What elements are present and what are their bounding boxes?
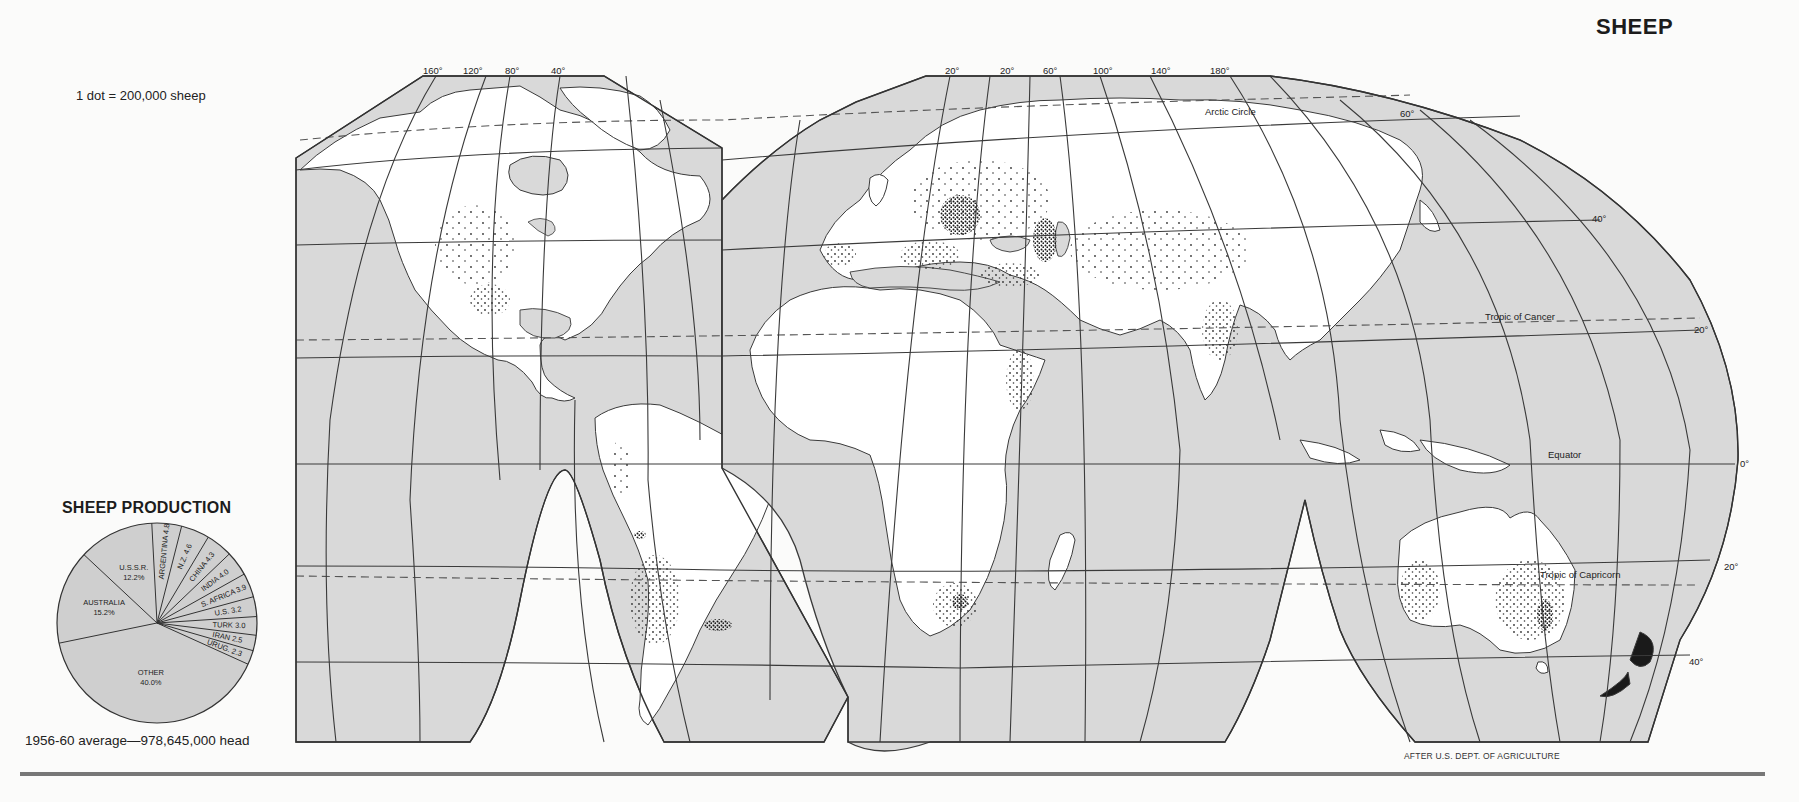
longitude-labels: 160° 120° 80° 40° 20° 20° 60° 100° 140° … <box>423 65 1230 76</box>
svg-text:100°: 100° <box>1093 65 1113 76</box>
bottom-rule <box>20 772 1765 776</box>
svg-text:60°: 60° <box>1400 108 1415 119</box>
pie-slice-label: OTHER40.0% <box>138 668 165 687</box>
arctic-circle-label: Arctic Circle <box>1205 106 1256 117</box>
source-credit: AFTER U.S. DEPT. OF AGRICULTURE <box>1404 751 1560 761</box>
svg-text:20°: 20° <box>1000 65 1015 76</box>
tropic-of-capricorn-label: Tropic of Capricorn <box>1540 569 1620 580</box>
lobe-eastern-hemisphere <box>722 76 1738 751</box>
equator-label: Equator <box>1548 449 1581 460</box>
svg-text:20°: 20° <box>1694 324 1709 335</box>
svg-text:40°: 40° <box>1592 213 1607 224</box>
svg-text:20°: 20° <box>945 65 960 76</box>
svg-text:40°: 40° <box>551 65 566 76</box>
svg-text:80°: 80° <box>505 65 520 76</box>
world-map: 160° 120° 80° 40° 20° 20° 60° 100° 140° … <box>0 0 1799 802</box>
svg-text:180°: 180° <box>1210 65 1230 76</box>
pie-chart-title: SHEEP PRODUCTION <box>62 499 231 517</box>
pie-slice-label: U.S.S.R.12.2% <box>119 563 148 582</box>
tropic-of-cancer-label: Tropic of Cancer <box>1485 311 1555 322</box>
svg-text:160°: 160° <box>423 65 443 76</box>
svg-text:140°: 140° <box>1151 65 1171 76</box>
svg-text:60°: 60° <box>1043 65 1058 76</box>
pie-slice-label: TURK 3.0 <box>212 620 245 630</box>
svg-text:120°: 120° <box>463 65 483 76</box>
svg-text:20°: 20° <box>1724 561 1739 572</box>
sheep-production-pie: ARGENTINA 4.8N.Z. 4.6CHINA 4.3INDIA 4.0S… <box>57 523 257 723</box>
pie-chart-caption: 1956-60 average—978,645,000 head <box>25 733 249 748</box>
svg-text:40°: 40° <box>1689 656 1704 667</box>
svg-text:0°: 0° <box>1740 458 1749 469</box>
